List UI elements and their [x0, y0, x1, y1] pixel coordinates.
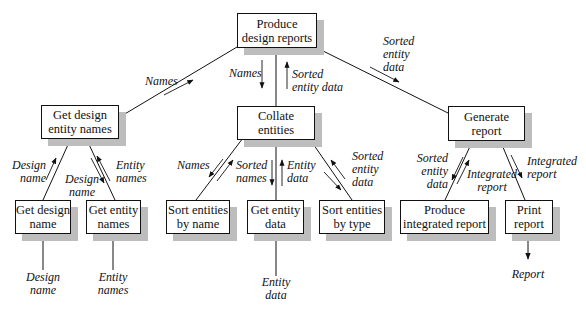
label-sorted-entity-data-to-integrated: Sorted entity data — [410, 152, 448, 191]
label-names-down-center: Names — [229, 67, 262, 80]
label-sorted-names-up: Sorted names — [236, 159, 267, 185]
label-names-down-sort: Names — [177, 159, 210, 172]
node-get-design-name: Get design name — [15, 200, 71, 234]
label-entity-data-up: Entity data — [287, 159, 316, 185]
node-print-report: Print report — [505, 200, 553, 234]
label-input-entity-names: Entity names — [93, 271, 133, 297]
node-collate-entities: Collate entities — [237, 106, 315, 140]
node-sort-entities-by-name: Sort entities by name — [166, 200, 230, 234]
label-input-design-name: Design name — [23, 271, 63, 297]
node-sort-entities-by-type: Sort entities by type — [319, 200, 385, 234]
label-names-up-left: Names — [145, 75, 178, 88]
label-design-name-up: Design name — [6, 159, 46, 185]
label-sorted-entity-data-up-center: Sorted entity data — [292, 68, 343, 94]
node-get-entity-data: Get entity data — [247, 200, 304, 234]
label-sorted-entity-data-from-type: Sorted entity data — [352, 150, 383, 189]
label-design-name-down: Design name — [62, 173, 102, 199]
label-integrated-report-down: Integrated report — [527, 155, 577, 181]
label-sorted-entity-data-right: Sorted entity data — [383, 35, 414, 74]
label-integrated-report-up: Integrated report — [462, 168, 522, 194]
node-get-entity-names: Get entity names — [86, 200, 141, 234]
node-produce-integrated-report: Produce integrated report — [400, 200, 489, 234]
node-get-design-entity-names: Get design entity names — [41, 105, 119, 139]
label-input-entity-data: Entity data — [256, 276, 296, 302]
node-produce-design-reports: Produce design reports — [237, 13, 317, 48]
label-entity-names-up: Entity names — [116, 159, 147, 185]
label-output-report: Report — [508, 268, 548, 281]
node-generate-report: Generate report — [448, 106, 525, 141]
